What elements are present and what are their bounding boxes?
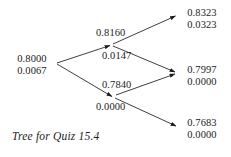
node-up-up-leaf: 0.8323 0.0323 — [178, 7, 226, 30]
node-down-down-leaf: 0.7683 0.0000 — [178, 117, 226, 140]
node-root: 0.8000 0.0067 — [8, 53, 56, 76]
node-root-value-top: 0.8000 — [8, 53, 56, 65]
node-ud-value-top: 0.7997 — [178, 64, 226, 76]
node-ud-value-bottom: 0.0000 — [178, 76, 226, 88]
node-down-value-top: 0.7840 — [102, 79, 131, 91]
node-up-down-leaf: 0.7997 0.0000 — [178, 64, 226, 87]
node-up-value-bottom: 0.0147 — [102, 50, 131, 62]
node-down-value-bottom: 0.0000 — [96, 101, 125, 113]
node-uu-value-bottom: 0.0323 — [178, 19, 226, 31]
node-uu-value-top: 0.8323 — [178, 7, 226, 19]
node-up-value-top: 0.8160 — [96, 27, 125, 39]
node-root-value-bottom: 0.0067 — [8, 65, 56, 77]
figure-caption: Tree for Quiz 15.4 — [12, 130, 100, 142]
tree-diagram-figure: 0.8000 0.0067 0.8160 0.0147 0.7840 0.000… — [0, 0, 231, 157]
node-dd-value-bottom: 0.0000 — [178, 129, 226, 141]
node-dd-value-top: 0.7683 — [178, 117, 226, 129]
